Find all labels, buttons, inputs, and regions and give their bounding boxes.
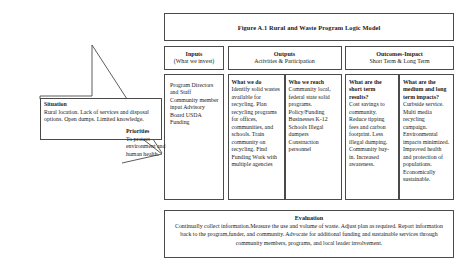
column-header-outcomes-subtitle: Short Term & Long Term: [369, 58, 429, 66]
column-body-short-term-heading: What are the short term results?: [349, 79, 395, 101]
situation-heading: Situation: [44, 101, 158, 109]
column-header-inputs-title: Inputs: [186, 50, 203, 58]
priorities-block: Priorities To protect environment and hu…: [126, 128, 172, 158]
column-body-what-we-do-text: Identify solid wastes available for recy…: [232, 86, 281, 168]
column-body-what-we-do: What we do Identify solid wastes availab…: [228, 74, 285, 200]
column-body-who-we-reach-heading: Who we reach: [289, 79, 338, 86]
column-body-short-term: What are the short term results? Cost sa…: [345, 74, 399, 200]
column-header-inputs-subtitle: (What we invest): [174, 58, 215, 66]
column-header-outputs-subtitle: Activities & Participation: [254, 58, 315, 66]
page-title: Figure A.1 Rural and Waste Program Logic…: [238, 24, 381, 31]
column-header-inputs: Inputs (What we invest): [164, 46, 224, 70]
column-header-outputs-title: Outputs: [274, 50, 295, 58]
column-body-who-we-reach: Who we reach Community local, federal st…: [285, 74, 342, 200]
column-body-inputs-text: Program Directors and Staff Community me…: [170, 82, 220, 127]
column-header-outcomes-title: Outcomes-Impact: [376, 50, 423, 58]
evaluation-box: Evaluation Continually collect informati…: [164, 210, 454, 258]
column-body-long-term: What are the medium and long term impact…: [399, 74, 454, 200]
figure-title-box: Figure A.1 Rural and Waste Program Logic…: [164, 13, 454, 41]
column-header-outcomes: Outcomes-Impact Short Term & Long Term: [345, 46, 454, 70]
evaluation-text: Continually collect information.Measure …: [171, 222, 447, 247]
column-body-inputs: Program Directors and Staff Community me…: [164, 74, 224, 200]
evaluation-heading: Evaluation: [171, 215, 447, 221]
column-body-what-we-do-heading: What we do: [232, 79, 281, 86]
column-body-short-term-text: Cost savings to community. Reduce tippin…: [349, 101, 395, 168]
priorities-heading: Priorities: [126, 128, 172, 136]
priorities-text: To protect environment and human health.: [126, 136, 172, 159]
column-header-outputs: Outputs Activities & Participation: [228, 46, 342, 70]
column-body-long-term-heading: What are the medium and long term impact…: [403, 79, 450, 101]
column-body-long-term-text: Curbside service. Multi media recycling …: [403, 101, 450, 183]
logic-model-diagram: Figure A.1 Rural and Waste Program Logic…: [0, 0, 463, 278]
situation-text: Rural location. Lack of services and dis…: [44, 109, 158, 124]
column-body-who-we-reach-text: Community local, federal state solid pro…: [289, 86, 338, 153]
